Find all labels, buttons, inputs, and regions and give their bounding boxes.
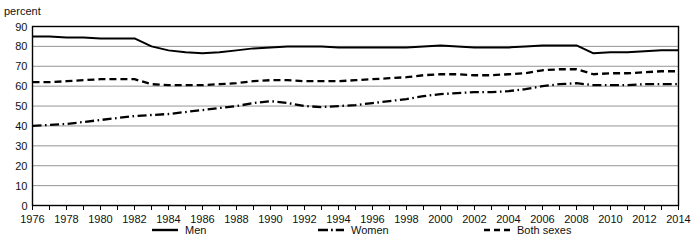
series-line-men [33,36,679,53]
x-tick-labels: 1976197819801982198419861988199019921994… [20,213,690,225]
plot-area: 0102030405060708090 19761978198019821984… [0,0,692,245]
x-tick-label-1996: 1996 [360,213,384,225]
plot-border [33,27,679,206]
y-tick-label-40: 40 [15,120,27,132]
legend-label-both-sexes: Both sexes [517,224,572,236]
x-tick-label-2000: 2000 [428,213,452,225]
y-tick-label-20: 20 [15,160,27,172]
legend-label-women: Women [351,224,389,236]
y-tick-label-10: 10 [15,180,27,192]
x-tick-label-1988: 1988 [224,213,248,225]
y-tick-labels: 0102030405060708090 [15,21,27,212]
x-tick-label-1986: 1986 [190,213,214,225]
line-chart-svg: 0102030405060708090 19761978198019821984… [0,0,692,245]
legend-label-men: Men [185,224,206,236]
x-tick-label-2012: 2012 [632,213,656,225]
x-tick-label-2002: 2002 [462,213,486,225]
y-tick-label-60: 60 [15,80,27,92]
x-tick-label-2014: 2014 [666,213,690,225]
x-tick-label-1992: 1992 [292,213,316,225]
y-tick-label-70: 70 [15,60,27,72]
chart-legend: MenWomenBoth sexes [152,224,572,236]
chart-root: percent 0102030405060708090 197619781980… [0,0,692,245]
x-tick-label-1998: 1998 [394,213,418,225]
y-tick-label-50: 50 [15,100,27,112]
plot-frame [33,27,679,206]
x-tick-label-1978: 1978 [54,213,78,225]
x-tick-label-1982: 1982 [122,213,146,225]
x-tick-label-1976: 1976 [20,213,44,225]
x-tick-label-2010: 2010 [598,213,622,225]
y-tick-label-0: 0 [21,200,27,212]
x-tick-label-1990: 1990 [258,213,282,225]
y-tick-label-90: 90 [15,21,27,33]
x-tick-label-2004: 2004 [496,213,520,225]
x-tick-label-2006: 2006 [530,213,554,225]
series-line-women [33,83,679,126]
data-series-group [33,36,679,126]
y-tick-label-30: 30 [15,140,27,152]
x-tick-label-1980: 1980 [88,213,112,225]
x-tick-label-1984: 1984 [156,213,180,225]
y-tick-label-80: 80 [15,40,27,52]
x-tick-label-1994: 1994 [326,213,350,225]
x-tick-label-2008: 2008 [564,213,588,225]
